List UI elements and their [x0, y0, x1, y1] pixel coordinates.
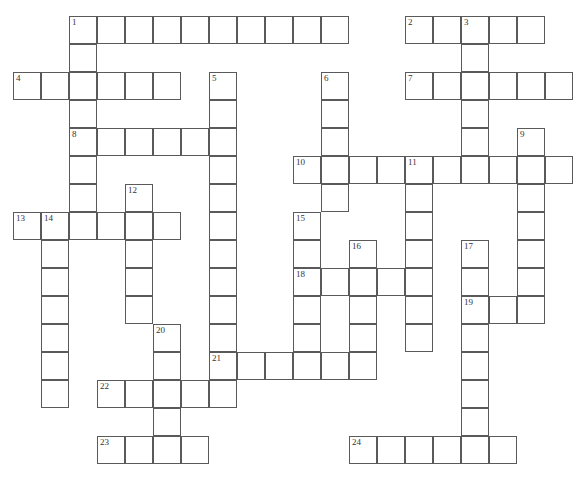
- crossword-cell[interactable]: [41, 268, 69, 296]
- crossword-cell[interactable]: [517, 72, 545, 100]
- crossword-cell[interactable]: 5: [209, 72, 237, 100]
- crossword-cell[interactable]: [321, 352, 349, 380]
- crossword-cell[interactable]: [97, 128, 125, 156]
- crossword-cell[interactable]: [153, 16, 181, 44]
- crossword-cell[interactable]: [293, 240, 321, 268]
- crossword-cell[interactable]: [461, 156, 489, 184]
- crossword-cell[interactable]: [489, 436, 517, 464]
- crossword-cell[interactable]: [517, 268, 545, 296]
- crossword-cell[interactable]: [377, 156, 405, 184]
- crossword-cell[interactable]: 14: [41, 212, 69, 240]
- crossword-cell[interactable]: [41, 324, 69, 352]
- crossword-cell[interactable]: [489, 16, 517, 44]
- crossword-cell[interactable]: [461, 128, 489, 156]
- crossword-cell[interactable]: [153, 380, 181, 408]
- crossword-cell[interactable]: [517, 240, 545, 268]
- crossword-cell[interactable]: [209, 324, 237, 352]
- crossword-cell[interactable]: 10: [293, 156, 321, 184]
- crossword-cell[interactable]: [97, 212, 125, 240]
- crossword-cell[interactable]: [349, 352, 377, 380]
- crossword-cell[interactable]: 2: [405, 16, 433, 44]
- crossword-cell[interactable]: [153, 436, 181, 464]
- crossword-cell[interactable]: [405, 212, 433, 240]
- crossword-cell[interactable]: [41, 72, 69, 100]
- crossword-cell[interactable]: 15: [293, 212, 321, 240]
- crossword-cell[interactable]: [153, 408, 181, 436]
- crossword-cell[interactable]: [377, 268, 405, 296]
- crossword-cell[interactable]: [209, 100, 237, 128]
- crossword-cell[interactable]: [461, 72, 489, 100]
- crossword-cell[interactable]: [69, 156, 97, 184]
- crossword-cell[interactable]: [349, 324, 377, 352]
- crossword-cell[interactable]: [41, 296, 69, 324]
- crossword-cell[interactable]: [69, 212, 97, 240]
- crossword-cell[interactable]: [153, 72, 181, 100]
- crossword-cell[interactable]: [293, 296, 321, 324]
- crossword-cell[interactable]: [209, 212, 237, 240]
- crossword-cell[interactable]: [125, 212, 153, 240]
- crossword-cell[interactable]: [41, 380, 69, 408]
- crossword-cell[interactable]: [69, 100, 97, 128]
- crossword-cell[interactable]: [293, 16, 321, 44]
- crossword-cell[interactable]: 18: [293, 268, 321, 296]
- crossword-cell[interactable]: [489, 296, 517, 324]
- crossword-cell[interactable]: 9: [517, 128, 545, 156]
- crossword-cell[interactable]: [461, 380, 489, 408]
- crossword-cell[interactable]: [321, 128, 349, 156]
- crossword-cell[interactable]: [461, 436, 489, 464]
- crossword-cell[interactable]: 11: [405, 156, 433, 184]
- crossword-cell[interactable]: [349, 156, 377, 184]
- crossword-cell[interactable]: [125, 128, 153, 156]
- crossword-cell[interactable]: [209, 128, 237, 156]
- crossword-cell[interactable]: [461, 352, 489, 380]
- crossword-cell[interactable]: [321, 156, 349, 184]
- crossword-cell[interactable]: [97, 16, 125, 44]
- crossword-cell[interactable]: 23: [97, 436, 125, 464]
- crossword-cell[interactable]: [181, 436, 209, 464]
- crossword-cell[interactable]: [517, 296, 545, 324]
- crossword-cell[interactable]: 20: [153, 324, 181, 352]
- crossword-cell[interactable]: 13: [13, 212, 41, 240]
- crossword-cell[interactable]: [209, 240, 237, 268]
- crossword-cell[interactable]: [545, 72, 573, 100]
- crossword-cell[interactable]: [125, 380, 153, 408]
- crossword-cell[interactable]: [125, 296, 153, 324]
- crossword-cell[interactable]: [405, 296, 433, 324]
- crossword-cell[interactable]: [153, 128, 181, 156]
- crossword-cell[interactable]: [321, 184, 349, 212]
- crossword-cell[interactable]: [349, 296, 377, 324]
- crossword-cell[interactable]: [209, 296, 237, 324]
- crossword-cell[interactable]: [181, 128, 209, 156]
- crossword-cell[interactable]: [181, 380, 209, 408]
- crossword-cell[interactable]: [209, 184, 237, 212]
- crossword-cell[interactable]: [321, 100, 349, 128]
- crossword-cell[interactable]: 17: [461, 240, 489, 268]
- crossword-cell[interactable]: [265, 352, 293, 380]
- crossword-cell[interactable]: [181, 16, 209, 44]
- crossword-cell[interactable]: [237, 16, 265, 44]
- crossword-cell[interactable]: [209, 380, 237, 408]
- crossword-cell[interactable]: [405, 240, 433, 268]
- crossword-cell[interactable]: [209, 156, 237, 184]
- crossword-cell[interactable]: [41, 240, 69, 268]
- crossword-cell[interactable]: [461, 44, 489, 72]
- crossword-cell[interactable]: [517, 156, 545, 184]
- crossword-cell[interactable]: [237, 352, 265, 380]
- crossword-cell[interactable]: [321, 268, 349, 296]
- crossword-cell[interactable]: [405, 268, 433, 296]
- crossword-cell[interactable]: 7: [405, 72, 433, 100]
- crossword-cell[interactable]: 24: [349, 436, 377, 464]
- crossword-cell[interactable]: [405, 324, 433, 352]
- crossword-cell[interactable]: 22: [97, 380, 125, 408]
- crossword-cell[interactable]: 21: [209, 352, 237, 380]
- crossword-cell[interactable]: [41, 352, 69, 380]
- crossword-cell[interactable]: [405, 184, 433, 212]
- crossword-cell[interactable]: [153, 352, 181, 380]
- crossword-cell[interactable]: [125, 436, 153, 464]
- crossword-cell[interactable]: [489, 156, 517, 184]
- crossword-cell[interactable]: 8: [69, 128, 97, 156]
- crossword-cell[interactable]: [125, 240, 153, 268]
- crossword-cell[interactable]: [433, 16, 461, 44]
- crossword-cell[interactable]: [461, 268, 489, 296]
- crossword-cell[interactable]: [293, 324, 321, 352]
